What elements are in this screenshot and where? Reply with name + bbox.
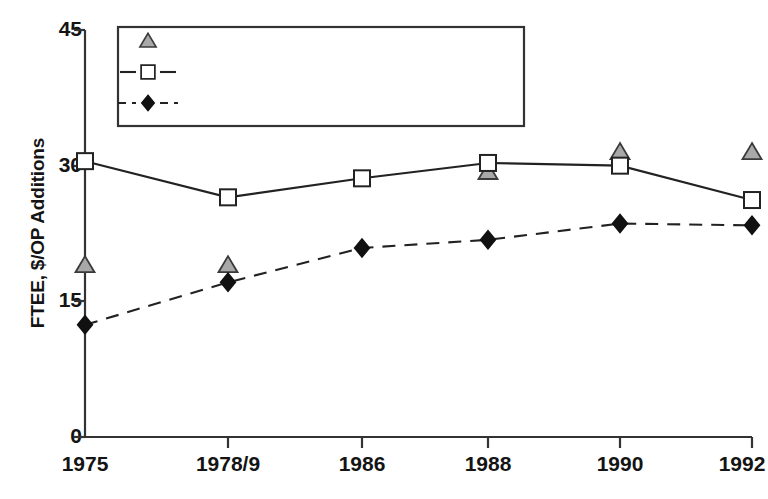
marker-square-icon xyxy=(480,155,496,171)
marker-diamond-icon xyxy=(745,216,760,234)
marker-diamond-icon xyxy=(481,231,496,249)
series-line-3 xyxy=(85,224,752,325)
marker-triangle-icon xyxy=(743,143,762,159)
marker-square-icon xyxy=(220,189,236,205)
marker-diamond-icon xyxy=(78,316,93,334)
marker-diamond-icon xyxy=(613,215,628,233)
marker-square-icon xyxy=(354,170,370,186)
marker-diamond-icon xyxy=(355,239,370,257)
series-1 xyxy=(76,143,762,272)
chart-container: FTEE, $/OP Additions 45 30 15 0 1975 197… xyxy=(0,0,768,499)
marker-triangle-icon xyxy=(76,256,95,272)
marker-diamond-icon xyxy=(221,273,236,291)
marker-square-icon xyxy=(77,153,93,169)
legend-box xyxy=(118,27,524,126)
marker-square-icon xyxy=(141,65,155,79)
marker-square-icon xyxy=(744,192,760,208)
data-series-layer xyxy=(76,143,762,334)
series-2 xyxy=(77,153,760,208)
plot-area xyxy=(0,0,768,499)
marker-square-icon xyxy=(612,158,628,174)
series-3 xyxy=(78,215,760,334)
series-line-2 xyxy=(85,161,752,200)
marker-triangle-icon xyxy=(219,256,238,272)
